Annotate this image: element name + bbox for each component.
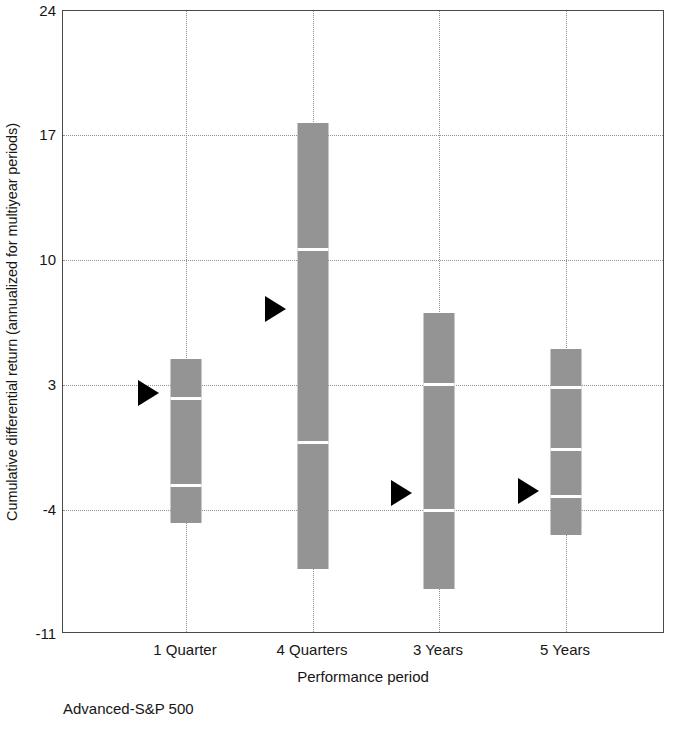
plot-area: [62, 10, 664, 633]
mean-marker-triangle-icon-4-quarters: [265, 296, 286, 322]
mean-marker-triangle-icon-1-quarter: [138, 380, 159, 406]
bar-segment-divider: [171, 397, 202, 400]
x-axis-tick-labels: 1 Quarter 4 Quarters 3 Years 5 Years: [62, 641, 664, 665]
bar-segment-divider: [551, 448, 582, 451]
x-tick-1-quarter: 1 Quarter: [153, 641, 216, 658]
x-axis-title: Performance period: [62, 668, 664, 685]
range-bar-4-quarters[interactable]: [298, 123, 329, 569]
range-bar-3-years[interactable]: [424, 313, 455, 589]
y-tick-neg11: -11: [8, 625, 56, 642]
y-tick-neg4: -4: [8, 501, 56, 518]
y-axis-tick-labels: 24 17 10 3 -4 -11: [0, 0, 56, 732]
range-bar-5-years[interactable]: [551, 349, 582, 535]
x-tick-4-quarters: 4 Quarters: [277, 641, 348, 658]
chart-figure: Cumulative differential return (annualiz…: [0, 0, 673, 732]
gridline-y-17: [63, 135, 663, 136]
y-tick-3: 3: [8, 376, 56, 393]
x-tick-5-years: 5 Years: [540, 641, 590, 658]
x-tick-3-years: 3 Years: [413, 641, 463, 658]
gridline-x-5-years: [566, 11, 567, 632]
bar-segment-divider: [551, 386, 582, 389]
gridline-y-10: [63, 260, 663, 261]
y-tick-17: 17: [8, 126, 56, 143]
gridline-x-1-quarter: [186, 11, 187, 632]
y-tick-24: 24: [8, 2, 56, 19]
bar-segment-divider: [424, 383, 455, 386]
bar-segment-divider: [171, 484, 202, 487]
bar-segment-divider: [424, 509, 455, 512]
chart-caption: Advanced-S&P 500: [63, 700, 194, 717]
y-tick-10: 10: [8, 251, 56, 268]
bar-segment-divider: [551, 495, 582, 498]
range-bar-1-quarter[interactable]: [171, 359, 202, 523]
mean-marker-triangle-icon-3-years: [391, 480, 412, 506]
bar-segment-divider: [298, 248, 329, 251]
bar-segment-divider: [298, 441, 329, 444]
mean-marker-triangle-icon-5-years: [518, 478, 539, 504]
